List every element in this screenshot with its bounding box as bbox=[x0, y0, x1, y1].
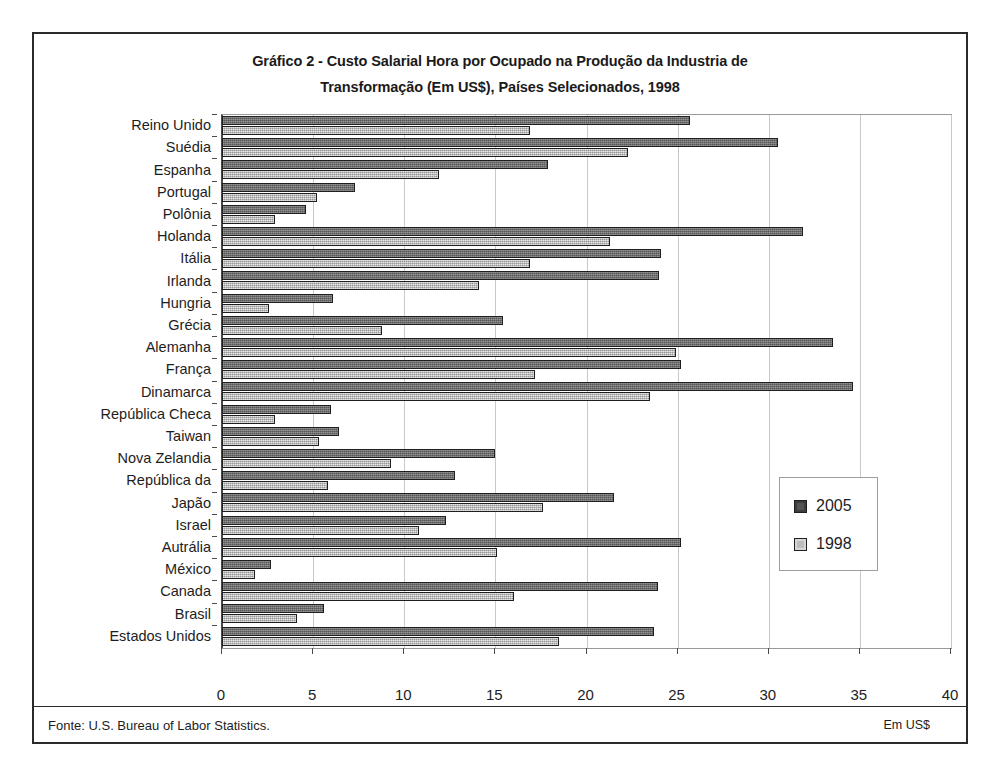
gridline-40 bbox=[951, 115, 952, 648]
x-axis-label-40: 40 bbox=[942, 686, 959, 703]
bar-row bbox=[222, 204, 951, 226]
bar-1998-república-da[interactable] bbox=[222, 481, 328, 490]
bar-2005-reino-unido[interactable] bbox=[222, 116, 690, 125]
bar-row bbox=[222, 159, 951, 181]
y-axis-tick bbox=[212, 181, 217, 182]
bar-1998-holanda[interactable] bbox=[222, 237, 610, 246]
bar-row bbox=[222, 226, 951, 248]
legend-item-1998[interactable]: 1998 bbox=[794, 535, 852, 553]
y-axis-label-dinamarca: Dinamarca bbox=[141, 385, 211, 399]
bar-1998-dinamarca[interactable] bbox=[222, 392, 650, 401]
bar-1998-israel[interactable] bbox=[222, 526, 419, 535]
bar-1998-japão[interactable] bbox=[222, 503, 543, 512]
x-axis-label-30: 30 bbox=[759, 686, 776, 703]
bar-2005-taiwan[interactable] bbox=[222, 427, 339, 436]
x-axis-tick-35 bbox=[859, 648, 860, 654]
bar-row bbox=[222, 359, 951, 381]
bar-1998-itália[interactable] bbox=[222, 259, 530, 268]
legend-swatch-2005-icon bbox=[794, 500, 807, 513]
bar-1998-espanha[interactable] bbox=[222, 170, 439, 179]
legend-label-2005: 2005 bbox=[816, 497, 852, 515]
y-axis-tick bbox=[212, 514, 217, 515]
bar-2005-república-da[interactable] bbox=[222, 471, 455, 480]
y-axis-label-alemanha: Alemanha bbox=[146, 340, 211, 354]
y-axis-label-israel: Israel bbox=[176, 518, 211, 532]
bar-1998-estados-unidos[interactable] bbox=[222, 637, 559, 646]
bar-row bbox=[222, 248, 951, 270]
y-axis-label-autrália: Autrália bbox=[162, 540, 211, 554]
bar-2005-suédia[interactable] bbox=[222, 138, 778, 147]
x-axis-tick-15 bbox=[494, 648, 495, 654]
bar-1998-alemanha[interactable] bbox=[222, 348, 676, 357]
bar-2005-israel[interactable] bbox=[222, 516, 446, 525]
y-axis-label-japão: Japão bbox=[171, 496, 211, 510]
bar-2005-polônia[interactable] bbox=[222, 205, 306, 214]
y-axis-label-canada: Canada bbox=[160, 584, 211, 598]
x-axis-tick-25 bbox=[677, 648, 678, 654]
chart-title-line-1: Gráfico 2 - Custo Salarial Hora por Ocup… bbox=[34, 48, 966, 74]
bar-2005-itália[interactable] bbox=[222, 249, 661, 258]
bar-2005-espanha[interactable] bbox=[222, 160, 548, 169]
y-axis-label-estados-unidos: Estados Unidos bbox=[109, 629, 211, 643]
bar-1998-hungria[interactable] bbox=[222, 304, 269, 313]
y-axis-label-frança: França bbox=[166, 362, 211, 376]
bar-1998-portugal[interactable] bbox=[222, 193, 317, 202]
bar-2005-nova-zelandia[interactable] bbox=[222, 449, 495, 458]
bar-row bbox=[222, 293, 951, 315]
footer-divider bbox=[34, 706, 966, 707]
bar-2005-estados-unidos[interactable] bbox=[222, 627, 654, 636]
bar-1998-polônia[interactable] bbox=[222, 215, 275, 224]
bar-2005-dinamarca[interactable] bbox=[222, 382, 853, 391]
bar-2005-holanda[interactable] bbox=[222, 227, 803, 236]
bar-1998-irlanda[interactable] bbox=[222, 281, 479, 290]
bar-1998-reino-unido[interactable] bbox=[222, 126, 530, 135]
y-axis-label-república-checa: República Checa bbox=[101, 407, 211, 421]
bar-1998-frança[interactable] bbox=[222, 370, 535, 379]
bar-1998-brasil[interactable] bbox=[222, 614, 297, 623]
bar-2005-frança[interactable] bbox=[222, 360, 681, 369]
bar-1998-taiwan[interactable] bbox=[222, 437, 319, 446]
y-axis-label-brasil: Brasil bbox=[175, 607, 211, 621]
y-axis-tick bbox=[212, 114, 217, 115]
bar-1998-nova-zelandia[interactable] bbox=[222, 459, 391, 468]
bar-row bbox=[222, 182, 951, 204]
x-axis-label-15: 15 bbox=[486, 686, 503, 703]
y-axis-tick bbox=[212, 381, 217, 382]
bar-2005-japão[interactable] bbox=[222, 493, 614, 502]
bar-2005-república-checa[interactable] bbox=[222, 405, 331, 414]
x-axis-label-25: 25 bbox=[668, 686, 685, 703]
y-axis-label-nova-zelandia: Nova Zelandia bbox=[118, 451, 212, 465]
bar-1998-méxico[interactable] bbox=[222, 570, 255, 579]
bar-2005-canada[interactable] bbox=[222, 582, 658, 591]
legend-item-2005[interactable]: 2005 bbox=[794, 497, 852, 515]
bar-row bbox=[222, 603, 951, 625]
bar-2005-portugal[interactable] bbox=[222, 183, 355, 192]
bar-2005-grécia[interactable] bbox=[222, 316, 503, 325]
bar-row bbox=[222, 448, 951, 470]
legend-label-1998: 1998 bbox=[816, 535, 852, 553]
y-axis-label-itália: Itália bbox=[180, 251, 211, 265]
y-axis-tick bbox=[212, 403, 217, 404]
bar-1998-suédia[interactable] bbox=[222, 148, 628, 157]
bar-2005-irlanda[interactable] bbox=[222, 271, 659, 280]
y-axis-tick bbox=[212, 247, 217, 248]
bar-2005-alemanha[interactable] bbox=[222, 338, 833, 347]
y-axis-label-méxico: México bbox=[165, 562, 211, 576]
bar-1998-grécia[interactable] bbox=[222, 326, 382, 335]
bar-2005-hungria[interactable] bbox=[222, 294, 333, 303]
bar-2005-autrália[interactable] bbox=[222, 538, 681, 547]
x-axis-label-10: 10 bbox=[395, 686, 412, 703]
y-axis-tick bbox=[212, 469, 217, 470]
y-axis-label-taiwan: Taiwan bbox=[166, 429, 211, 443]
bar-1998-república-checa[interactable] bbox=[222, 415, 275, 424]
y-axis-tick bbox=[212, 314, 217, 315]
bar-2005-brasil[interactable] bbox=[222, 604, 324, 613]
bar-row bbox=[222, 626, 951, 648]
chart-title-line-2: Transformação (Em US$), Países Seleciona… bbox=[34, 74, 966, 100]
chart-legend: 2005 1998 bbox=[779, 477, 878, 571]
y-axis-tick bbox=[212, 580, 217, 581]
bar-2005-méxico[interactable] bbox=[222, 560, 271, 569]
bar-1998-autrália[interactable] bbox=[222, 548, 497, 557]
y-axis-label-polônia: Polônia bbox=[163, 207, 211, 221]
bar-1998-canada[interactable] bbox=[222, 592, 514, 601]
